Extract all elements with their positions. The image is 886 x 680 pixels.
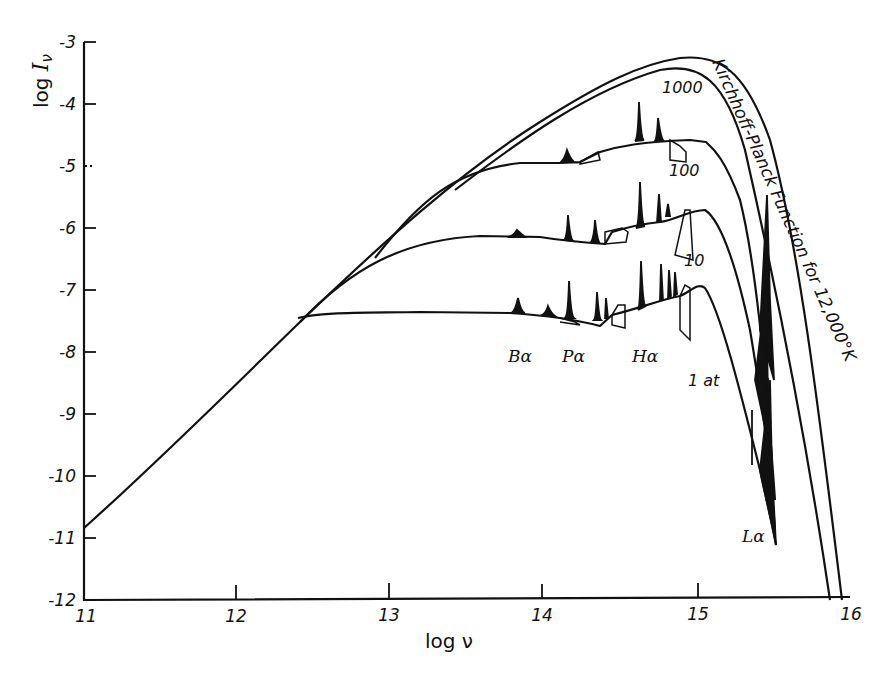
label-1000-at: 1000 (662, 78, 703, 97)
x-tick-label: 12 (225, 606, 247, 626)
x-tick-label: 16 (840, 604, 862, 624)
y-tick-labels: -3 -4 -5 -6 -7 -8 -9 -10 -11 -12 (48, 32, 76, 610)
y-tick-label: -7 (59, 280, 76, 300)
label-b-alpha: Bα (507, 346, 532, 366)
svg-text:log Iν: log Iν (28, 54, 56, 108)
emission-line-10at-a (510, 230, 525, 237)
emission-line-p-alpha-1at (542, 306, 555, 316)
paschen-jump-1at (612, 305, 625, 328)
emission-line-1at-c (605, 298, 608, 318)
x-tick-label: 15 (687, 604, 709, 624)
y-tick-label: -9 (59, 404, 76, 424)
emission-line-10at-b (564, 215, 573, 241)
label-planck-function: Kirchhoff-Planck Function for 12,000°K (708, 55, 861, 366)
y-axis-title-log: log (29, 71, 53, 108)
x-ticks (236, 583, 698, 599)
y-tick-label: -11 (48, 528, 76, 548)
x-tick-label: 11 (75, 606, 97, 626)
curve-1-at (298, 286, 776, 545)
emission-line-100at-c (655, 118, 663, 141)
emission-line-100at-a (561, 150, 574, 162)
label-p-alpha: Pα (561, 346, 585, 366)
label-l-alpha: Lα (741, 526, 765, 546)
emission-line-1at-d (660, 264, 663, 300)
y-tick-label: -5 (59, 156, 76, 176)
axes (84, 42, 850, 600)
label-1-at: 1 at (688, 371, 720, 390)
y-tick-label: -4 (59, 94, 76, 114)
balmer-jump-100at (670, 140, 686, 162)
y-tick-label: -3 (59, 32, 76, 52)
emission-line-1at-e (668, 270, 671, 298)
emission-line-10at-f (666, 204, 670, 216)
label-10-at: 10 (684, 251, 704, 270)
y-tick-label: -8 (59, 342, 76, 362)
emission-line-1at-a (565, 281, 574, 318)
y-tick-label: -12 (48, 590, 76, 610)
emission-line-10at-d (636, 182, 645, 228)
emission-line-1at-b (594, 292, 601, 320)
emission-line-10at-c (591, 220, 599, 242)
y-ticks (84, 42, 96, 538)
curve-planck (84, 57, 842, 600)
label-h-alpha: Hα (631, 346, 659, 366)
x-axis-title: log ν (425, 629, 473, 653)
label-100-at: 100 (669, 161, 700, 180)
emission-line-10at-e (657, 194, 661, 222)
emission-line-b-alpha-1at (511, 298, 525, 313)
x-tick-labels: 11 12 13 14 15 16 (75, 604, 862, 626)
y-tick-label: -6 (59, 218, 76, 238)
x-tick-label: 14 (531, 605, 553, 625)
y-axis-title: log Iν (28, 54, 56, 108)
y-tick-label: -10 (48, 466, 76, 486)
emission-line-100at-b (635, 102, 644, 141)
chart-canvas: -3 -4 -5 -6 -7 -8 -9 -10 -11 -12 11 12 1… (0, 0, 886, 680)
emission-line-h-alpha-1at (638, 261, 646, 310)
emission-line-1at-f (674, 272, 677, 296)
y-axis-title-sub: ν (38, 54, 56, 62)
x-tick-label: 13 (378, 605, 400, 625)
